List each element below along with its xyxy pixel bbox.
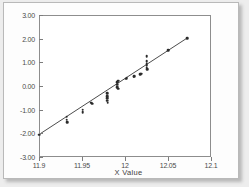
x-axis-tick-labels: 11.911.951212.0512.1 xyxy=(4,3,249,187)
chart-card: 3.002.001.000.00-1.00-2.00-3.00 11.911.9… xyxy=(3,2,239,179)
x-axis-title: X Value xyxy=(4,168,249,177)
chart-screenshot: 3.002.001.000.00-1.00-2.00-3.00 11.911.9… xyxy=(0,0,249,187)
